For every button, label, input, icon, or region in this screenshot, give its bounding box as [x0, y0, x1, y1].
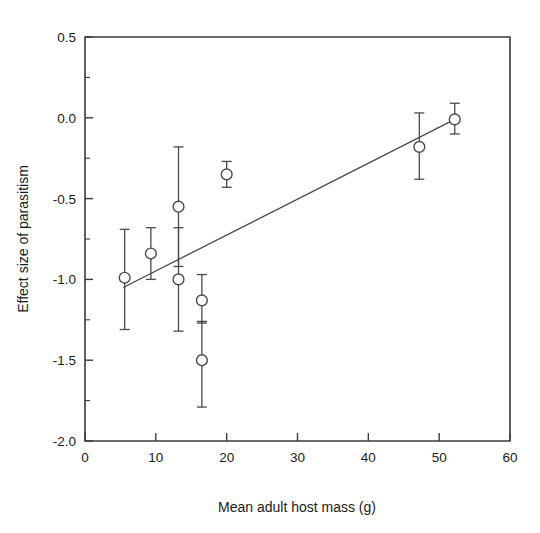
data-marker: [221, 169, 232, 180]
data-point: [414, 113, 425, 179]
x-tick-label: 10: [148, 450, 163, 465]
x-axis: 0102030405060: [81, 433, 517, 465]
plot-frame: [85, 37, 510, 441]
data-marker: [119, 272, 130, 283]
data-point: [196, 321, 207, 407]
x-tick-label: 50: [432, 450, 447, 465]
scatter-plot: 0.50.0-0.5-1.0-1.5-2.0 0102030405060 Mea…: [0, 0, 540, 533]
regression-line: [123, 119, 455, 287]
y-tick-label: -1.0: [53, 272, 76, 287]
data-marker: [173, 201, 184, 212]
y-tick-label: -0.5: [53, 192, 76, 207]
data-series: [119, 103, 460, 407]
data-marker: [196, 295, 207, 306]
data-marker: [173, 274, 184, 285]
data-point: [119, 229, 130, 329]
data-marker: [196, 355, 207, 366]
data-marker: [449, 114, 460, 125]
x-tick-label: 60: [502, 450, 517, 465]
data-point: [449, 103, 460, 134]
data-point: [196, 275, 207, 323]
y-tick-label: 0.5: [57, 30, 76, 45]
data-marker: [145, 248, 156, 259]
y-tick-label: 0.0: [57, 111, 76, 126]
y-axis: 0.50.0-0.5-1.0-1.5-2.0: [53, 30, 93, 449]
x-tick-label: 20: [219, 450, 234, 465]
data-point: [221, 161, 232, 187]
regression-line-segment: [123, 119, 455, 287]
x-axis-title: Mean adult host mass (g): [218, 499, 376, 515]
x-tick-label: 30: [290, 450, 305, 465]
x-tick-label: 0: [81, 450, 89, 465]
data-marker: [414, 141, 425, 152]
data-point: [173, 228, 184, 331]
y-tick-label: -1.5: [53, 353, 76, 368]
x-tick-label: 40: [361, 450, 376, 465]
figure-container: 0.50.0-0.5-1.0-1.5-2.0 0102030405060 Mea…: [0, 0, 540, 533]
y-tick-label: -2.0: [53, 434, 76, 449]
y-axis-title: Effect size of parasitism: [15, 165, 31, 313]
